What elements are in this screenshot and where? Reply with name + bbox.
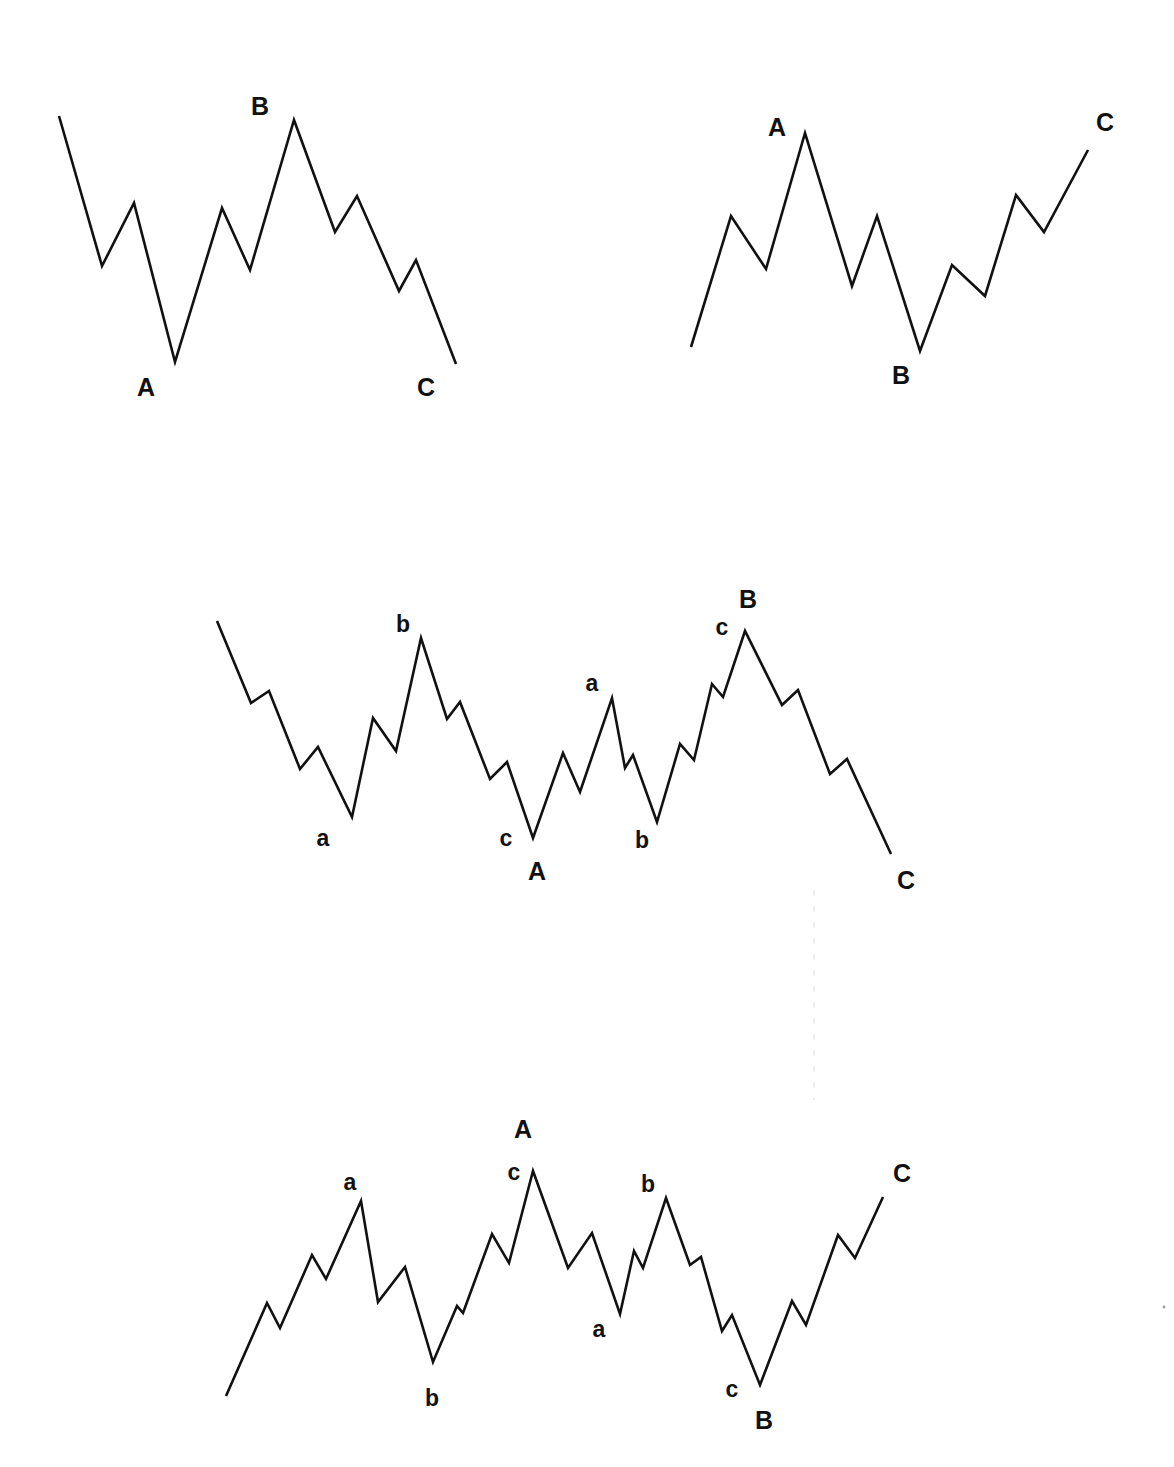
elliott-wave-diagrams: ABC ABC bacAabcBC abcAabcBC <box>0 0 1174 1467</box>
wave-labels: abcAabcBC <box>344 1115 911 1434</box>
wave-label-B: B <box>739 585 757 613</box>
wave-label-A: A <box>768 113 786 141</box>
wave-path <box>226 1171 883 1396</box>
wave-labels: ABC <box>768 108 1114 389</box>
wave-label-c: c <box>500 825 513 851</box>
wave-label-a: a <box>317 825 330 851</box>
wave-labels: bacAabcBC <box>317 585 915 894</box>
wave-label-b: b <box>396 611 410 637</box>
wave-label-a: a <box>586 670 599 696</box>
wave-label-C: C <box>1096 108 1114 136</box>
scan-artifact-dot <box>1163 1306 1166 1309</box>
wave-label-C: C <box>897 866 915 894</box>
wave-labels: ABC <box>137 92 435 401</box>
wave-path <box>217 621 891 854</box>
wave-path <box>59 116 456 364</box>
wave-label-c: c <box>508 1159 521 1185</box>
wave-label-c: c <box>716 614 729 640</box>
wave-label-a: a <box>593 1316 606 1342</box>
wave-label-c: c <box>726 1376 739 1402</box>
wave-label-C: C <box>893 1159 911 1187</box>
wave-label-B: B <box>251 92 269 120</box>
wave-label-a: a <box>344 1169 357 1195</box>
wave-label-A: A <box>137 373 155 401</box>
wave-label-b: b <box>425 1385 439 1411</box>
wave-path <box>691 133 1088 351</box>
diagram-flat-correction-up: ABC <box>691 108 1114 389</box>
wave-label-B: B <box>755 1406 773 1434</box>
wave-label-b: b <box>641 1171 655 1197</box>
wave-label-B: B <box>892 361 910 389</box>
wave-label-A: A <box>528 857 546 885</box>
diagram-complex-correction-up: abcAabcBC <box>226 1115 911 1434</box>
wave-label-A: A <box>514 1115 532 1143</box>
diagram-flat-correction-down: ABC <box>59 92 456 401</box>
wave-label-C: C <box>417 373 435 401</box>
wave-label-b: b <box>635 827 649 853</box>
diagram-complex-correction-down: bacAabcBC <box>217 585 915 894</box>
